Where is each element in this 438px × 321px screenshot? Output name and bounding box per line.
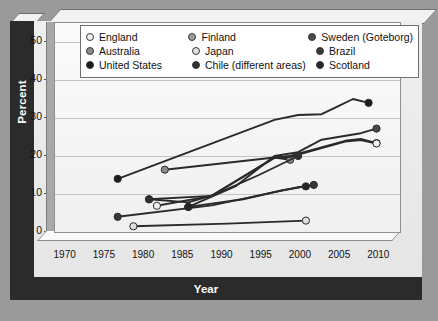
y-tick-label-30: 30: [16, 110, 42, 122]
y-tick-label-20: 20: [16, 148, 42, 160]
legend-marker-icon: [86, 33, 94, 41]
data-point-marker: [302, 183, 309, 190]
legend-marker-icon: [192, 61, 200, 69]
legend-label: Brazil: [329, 45, 355, 57]
legend-item-australia[interactable]: Australia: [86, 45, 192, 57]
legend-label: Japan: [205, 45, 234, 57]
data-point-marker: [114, 213, 121, 220]
legend-marker-icon: [192, 47, 200, 55]
x-tick-label-1985: 1985: [162, 249, 202, 260]
series-line: [149, 139, 376, 203]
legend-marker-icon: [316, 61, 324, 69]
legend-marker-icon: [86, 61, 94, 69]
series-brazil: [114, 181, 317, 220]
legend-item-chile-different-areas[interactable]: Chile (different areas): [192, 59, 316, 71]
series-japan: [130, 217, 310, 230]
data-point-marker: [295, 152, 302, 159]
series-england: [153, 140, 380, 210]
x-tick-label-2010: 2010: [358, 249, 398, 260]
data-point-marker: [146, 196, 153, 203]
chart-legend: EnglandFinlandSweden (Goteborg)Australia…: [80, 25, 419, 78]
legend-label: Scotland: [329, 59, 370, 71]
legend-item-england[interactable]: England: [86, 31, 188, 43]
legend-marker-icon: [308, 33, 316, 41]
legend-row: AustraliaJapanBrazil: [86, 44, 413, 58]
legend-label: England: [99, 31, 138, 43]
series-finland: [146, 139, 381, 203]
legend-label: Finland: [201, 31, 235, 43]
chart-left-wall: [10, 21, 34, 300]
chart-floor-corner: [412, 277, 422, 300]
data-point-marker: [153, 202, 160, 209]
data-point-marker: [373, 140, 380, 147]
x-tick-label-1970: 1970: [45, 249, 85, 260]
data-point-marker: [130, 223, 137, 230]
x-tick-label-1990: 1990: [202, 249, 242, 260]
legend-label: Chile (different areas): [205, 59, 306, 71]
legend-row: EnglandFinlandSweden (Goteborg): [86, 30, 413, 44]
series-line: [133, 221, 306, 227]
legend-item-united-states[interactable]: United States: [86, 59, 192, 71]
data-point-marker: [302, 217, 309, 224]
x-axis-title: Year: [0, 283, 412, 295]
y-tick-label-40: 40: [16, 72, 42, 84]
data-point-marker: [310, 181, 317, 188]
legend-item-brazil[interactable]: Brazil: [316, 45, 355, 57]
legend-marker-icon: [188, 33, 196, 41]
legend-item-sweden-goteborg[interactable]: Sweden (Goteborg): [308, 31, 413, 43]
y-tick-label-50: 50: [16, 34, 42, 46]
legend-marker-icon: [86, 47, 94, 55]
legend-item-scotland[interactable]: Scotland: [316, 59, 370, 71]
x-tick-label-2000: 2000: [280, 249, 320, 260]
y-tick-label-0: 0: [16, 224, 42, 236]
series-united-states: [114, 99, 372, 182]
legend-item-finland[interactable]: Finland: [188, 31, 308, 43]
data-point-marker: [185, 203, 192, 210]
x-tick-label-1975: 1975: [84, 249, 124, 260]
legend-marker-icon: [316, 47, 324, 55]
legend-row: United StatesChile (different areas)Scot…: [86, 58, 413, 72]
x-tick-label-1980: 1980: [123, 249, 163, 260]
data-point-marker: [161, 166, 168, 173]
series-sweden-goteborg: [185, 125, 380, 210]
x-tick-label-2005: 2005: [319, 249, 359, 260]
legend-label: Sweden (Goteborg): [321, 31, 413, 43]
y-tick-label-10: 10: [16, 186, 42, 198]
legend-label: Australia: [99, 45, 140, 57]
legend-item-japan[interactable]: Japan: [192, 45, 316, 57]
legend-label: United States: [99, 59, 162, 71]
series-line: [157, 140, 377, 206]
data-point-marker: [373, 125, 380, 132]
data-point-marker: [114, 175, 121, 182]
data-point-marker: [365, 99, 372, 106]
x-tick-label-1995: 1995: [241, 249, 281, 260]
